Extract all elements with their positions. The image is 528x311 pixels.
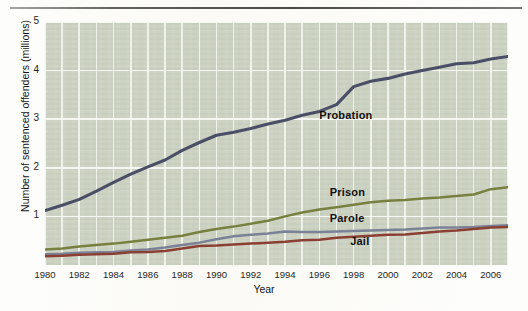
series-label-parole: Parole [330,212,365,224]
y-axis-title: Number of sentenced offenders (millions) [19,0,31,241]
x-axis-title: Year [0,283,528,295]
top-rule-divider [10,7,522,9]
series-line-probation [45,57,508,211]
series-label-probation: Probation [319,109,372,121]
series-label-jail: Jail [350,235,369,247]
x-tick-label: 2006 [471,269,511,280]
series-line-parole [45,225,508,254]
series-lines [45,22,508,265]
chart-plot-area: ProbationPrisonParoleJail [45,22,508,265]
series-line-prison [45,187,508,249]
series-label-prison: Prison [330,186,365,198]
